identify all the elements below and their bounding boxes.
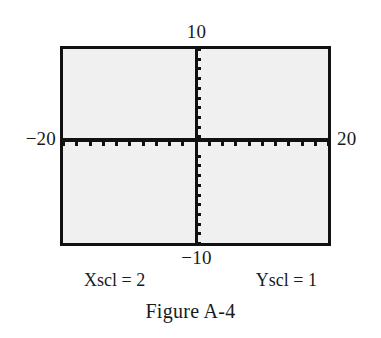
figure-a-4: 10 −10 −20 20 Xscl = 2 Yscl = 1 Figure A… [0,0,381,338]
xscl-label: Xscl = 2 [84,270,145,291]
y-axis-max-label: 10 [60,22,333,41]
yscl-label: Yscl = 1 [256,270,317,291]
figure-caption: Figure A-4 [0,300,381,323]
axes-svg [63,49,328,243]
scale-annotations: Xscl = 2 Yscl = 1 [60,270,331,291]
graph-plot-area [63,49,328,243]
y-axis-min-label: −10 [60,248,333,267]
x-axis-max-label: 20 [337,129,356,148]
graph-viewing-window [60,46,331,246]
x-axis-min-label: −20 [12,129,56,148]
